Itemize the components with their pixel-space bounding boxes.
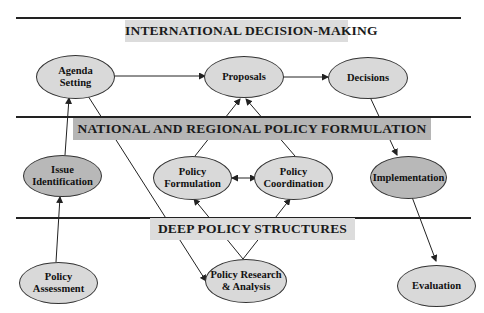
policy-cycle-diagram: INTERNATIONAL DECISION-MAKING NATIONAL A…: [0, 0, 484, 313]
node-implementation: Implementation: [370, 156, 447, 199]
node-agenda-setting: Agenda Setting: [36, 55, 115, 99]
node-policy-research-analysis: Policy Research & Analysis: [205, 259, 287, 303]
node-proposals: Proposals: [204, 56, 284, 98]
node-policy-coordination: Policy Coordination: [254, 156, 333, 200]
deep-layer-banner: DEEP POLICY STRUCTURES: [150, 218, 355, 240]
international-layer-banner: INTERNATIONAL DECISION-MAKING: [125, 20, 348, 42]
national-layer-banner: NATIONAL AND REGIONAL POLICY FORMULATION: [73, 118, 431, 140]
international-layer-line: [16, 17, 461, 19]
node-policy-assessment: Policy Assessment: [19, 262, 98, 304]
node-issue-identification: Issue Identification: [23, 155, 102, 197]
node-decisions: Decisions: [328, 57, 408, 99]
node-evaluation: Evaluation: [397, 265, 476, 307]
node-policy-formulation: Policy Formulation: [153, 156, 232, 200]
